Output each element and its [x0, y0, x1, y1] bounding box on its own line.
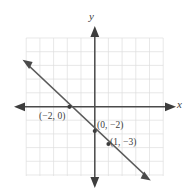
- point-label-0-neg2: (0, −2): [97, 121, 124, 131]
- x-axis-label: x: [177, 99, 182, 110]
- point-label-neg2-0: (−2, 0): [39, 112, 66, 122]
- coordinate-plane-figure: y x (−2, 0) (0, −2) (1, −3): [0, 0, 193, 193]
- point-marker-neg2-0: [67, 105, 71, 109]
- graph-canvas: [0, 0, 193, 193]
- y-axis-label: y: [89, 11, 94, 22]
- point-label-1-neg3: (1, −3): [110, 138, 137, 148]
